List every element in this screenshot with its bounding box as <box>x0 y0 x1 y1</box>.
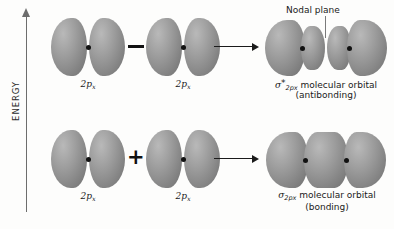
orbital-lobe <box>344 132 386 188</box>
nucleus-dot <box>181 45 186 50</box>
nucleus-dot <box>86 45 91 50</box>
energy-axis-label: ENERGY <box>11 69 21 133</box>
nucleus-dot <box>181 157 186 162</box>
transform-arrow-head-top <box>252 43 259 51</box>
orbital-lobe <box>146 18 182 76</box>
atomic-orbital-label-bottom-right: 2px <box>153 191 213 203</box>
molecular-orbital-bonding <box>266 132 386 188</box>
molecular-orbital-antibonding <box>265 20 387 76</box>
atomic-orbital-label-bottom-left: 2px <box>58 191 118 203</box>
plus-sign: + <box>127 147 145 168</box>
atomic-orbital-2px-bottom-right <box>146 130 220 188</box>
transform-arrow-head-bottom <box>252 155 259 163</box>
orbital-lobe <box>146 130 182 188</box>
orbital-lobe <box>304 132 348 188</box>
orbital-lobe <box>89 18 125 76</box>
nucleus-dot <box>344 158 349 163</box>
energy-axis-line <box>26 14 27 212</box>
atomic-orbital-label-top-right: 2px <box>153 79 213 91</box>
nodal-plane-label: Nodal plane <box>286 5 340 15</box>
orbital-lobe <box>266 132 308 188</box>
atomic-orbital-2px-top-right <box>146 18 220 76</box>
transform-arrow-line-bottom <box>214 158 254 159</box>
orbital-lobe <box>347 20 387 76</box>
nucleus-dot <box>86 157 91 162</box>
molecular-orbital-sublabel-bonding: (bonding) <box>252 201 394 213</box>
nucleus-dot <box>300 46 305 51</box>
atomic-orbital-2px-bottom-left <box>51 130 125 188</box>
minus-sign <box>128 45 144 48</box>
atomic-orbital-label-top-left: 2px <box>58 79 118 91</box>
figure-canvas: ENERGY 2px 2px Nodal plane σ*2px molecul… <box>0 0 394 229</box>
nucleus-dot <box>303 158 308 163</box>
orbital-lobe <box>89 130 125 188</box>
orbital-lobe <box>265 20 305 76</box>
orbital-lobe <box>51 18 87 76</box>
transform-arrow-line-top <box>214 46 254 47</box>
atomic-orbital-2px-top-left <box>51 18 125 76</box>
nucleus-dot <box>347 46 352 51</box>
orbital-lobe <box>51 130 87 188</box>
molecular-orbital-sublabel-antibonding: (antibonding) <box>250 89 394 101</box>
